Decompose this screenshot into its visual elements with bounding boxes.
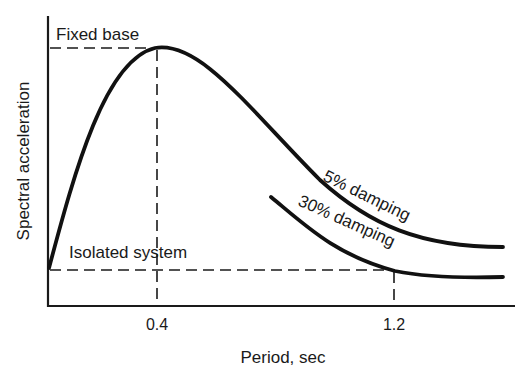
x-tick-0-4: 0.4 [146, 316, 168, 333]
x-axis-title: Period, sec [240, 348, 326, 367]
isolated-system-label: Isolated system [69, 243, 187, 262]
curve-5-percent-damping [49, 47, 503, 268]
response-spectrum-diagram: Fixed base Isolated system 5% damping 30… [0, 0, 520, 373]
fixed-base-label: Fixed base [56, 25, 139, 44]
y-axis-title: Spectral acceleration [14, 82, 33, 241]
x-tick-1-2: 1.2 [383, 316, 405, 333]
